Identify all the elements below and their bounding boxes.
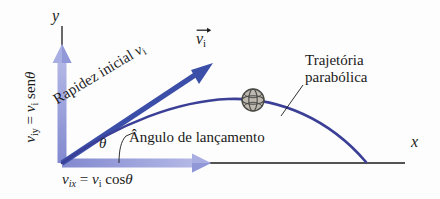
vector-sub: i xyxy=(203,37,206,49)
viy-equals: = xyxy=(22,116,38,124)
y-axis-label: y xyxy=(52,7,59,25)
trajectory-line-2: parabólica xyxy=(305,69,367,86)
launch-angle-label: Ângulo de lançamento xyxy=(129,129,265,146)
viy-angle: θ xyxy=(22,72,38,79)
vix-rhs-var: v xyxy=(92,171,99,187)
vertical-component-label: viy = vi senθ xyxy=(22,42,40,172)
viy-var: v xyxy=(22,136,38,143)
vix-equals: = xyxy=(80,171,88,187)
trajectory-line-1: Trajetória xyxy=(305,52,364,68)
basketball-icon xyxy=(242,89,264,111)
horizontal-component-arrow xyxy=(62,154,211,173)
vix-sub: ix xyxy=(69,178,76,189)
vix-func: cos xyxy=(105,171,125,187)
velocity-vector-label: vi xyxy=(196,30,206,49)
vix-var: v xyxy=(62,171,69,187)
horizontal-component-label: vix = vi cosθ xyxy=(62,171,133,189)
projectile-motion-figure: y x viy = vi senθ vix = vi cosθ Rapidez … xyxy=(0,0,440,199)
viy-func: sen xyxy=(22,79,38,99)
theta-label: θ xyxy=(99,135,106,152)
vector-var: v xyxy=(196,30,203,47)
viy-rhs-var: v xyxy=(22,105,38,112)
viy-sub: iy xyxy=(29,128,40,136)
trajectory-label: Trajetória parabólica xyxy=(305,52,367,86)
x-axis-label: x xyxy=(411,133,418,151)
vix-angle: θ xyxy=(125,171,132,187)
vix-rhs-sub: i xyxy=(99,178,102,189)
vector-arrow-glyph: v xyxy=(196,30,203,48)
viy-rhs-sub: i xyxy=(29,103,40,106)
